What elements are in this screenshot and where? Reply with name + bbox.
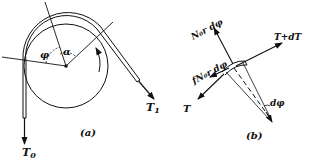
tension-label: T bbox=[183, 103, 192, 114]
figure-a-caption: (a) bbox=[80, 127, 96, 138]
belt-outer bbox=[23, 13, 140, 118]
friction-force-label: fN₀r dφ bbox=[189, 59, 229, 87]
rotation-arrow bbox=[96, 48, 100, 72]
bisector-dashed bbox=[234, 68, 270, 118]
dphi-label: dφ bbox=[270, 98, 285, 108]
radial-line-left bbox=[2, 57, 66, 66]
angle-alpha-label: α bbox=[63, 46, 71, 57]
angle-phi-label: φ bbox=[40, 49, 49, 60]
belt-friction-diagram: φ α T0 T1 (a) N₀r dφ fN₀r dφ T+dT T dφ (… bbox=[0, 0, 309, 161]
tension-t1-arrow bbox=[139, 81, 155, 99]
tension-t0-label: T0 bbox=[22, 146, 36, 160]
figure-a: φ α T0 T1 (a) bbox=[2, 2, 160, 160]
tension-plus-arrow bbox=[236, 43, 282, 66]
tension-plus-label: T+dT bbox=[274, 32, 303, 42]
figure-b-caption: (b) bbox=[246, 130, 263, 141]
tension-t1-label: T1 bbox=[146, 101, 160, 115]
radial-line-upright bbox=[66, 22, 113, 66]
figure-b: N₀r dφ fN₀r dφ T+dT T dφ (b) bbox=[183, 16, 303, 141]
